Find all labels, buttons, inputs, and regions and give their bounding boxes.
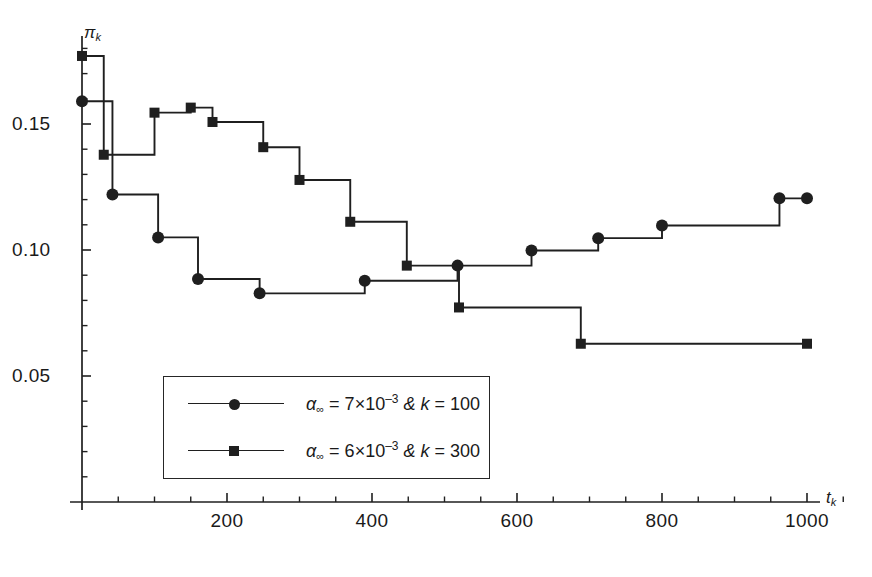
legend-k-1: k (421, 441, 430, 461)
legend-exponent-0: –3 (385, 392, 398, 406)
data-point-square (454, 302, 464, 312)
data-point-square (576, 339, 586, 349)
legend-k-0: k (421, 394, 430, 414)
x-tick-label: 600 (495, 511, 539, 530)
legend-eq1-0: = 7×10 (324, 394, 385, 414)
legend: α∞ = 7×10–3 & k = 100 α∞ = 6×10–3 & k = … (163, 376, 490, 479)
legend-alpha-sub-1: ∞ (316, 450, 324, 462)
legend-label-1: α∞ = 6×10–3 & k = 300 (306, 439, 480, 462)
y-axis-subscript: k (95, 31, 101, 43)
legend-eq2-0: = 100 (430, 394, 481, 414)
x-tick-label: 400 (350, 511, 394, 530)
data-point-circle (192, 273, 204, 285)
data-point-square (345, 217, 355, 227)
data-point-circle (152, 231, 164, 243)
legend-amp-0: & (399, 394, 421, 414)
data-point-square (208, 117, 218, 127)
data-point-square (150, 108, 160, 118)
x-tick-label: 800 (640, 511, 684, 530)
y-axis-label: πk (84, 24, 101, 43)
x-tick-label: 200 (205, 511, 249, 530)
x-tick-label: 1000 (785, 511, 829, 530)
data-point-circle (359, 275, 371, 287)
legend-alpha-0: α (306, 394, 316, 414)
series-square (77, 51, 812, 349)
data-point-square (99, 150, 109, 160)
data-point-circle (656, 220, 668, 232)
data-point-circle (106, 189, 118, 201)
data-point-circle (801, 192, 813, 204)
y-tick-label: 0.10 (12, 240, 51, 259)
y-tick-label: 0.05 (12, 366, 51, 385)
y-axis-symbol: π (84, 23, 95, 42)
figure-chart: πk tk α∞ = 7×10–3 & k = 100 α∞ = 6×10–3 … (0, 0, 872, 577)
data-point-circle (76, 95, 88, 107)
data-point-square (77, 51, 87, 61)
legend-alpha-sub-0: ∞ (316, 403, 324, 415)
data-point-square (295, 175, 305, 185)
legend-sample-circle (188, 397, 284, 411)
data-point-circle (773, 192, 785, 204)
series-line-square (82, 56, 807, 344)
series-circle (76, 95, 813, 299)
legend-exponent-1: –3 (385, 439, 398, 453)
legend-amp-1: & (399, 441, 421, 461)
y-tick-label: 0.15 (12, 114, 51, 133)
data-point-square (802, 339, 812, 349)
legend-eq1-1: = 6×10 (324, 441, 385, 461)
data-point-square (258, 142, 268, 152)
legend-item-0: α∞ = 7×10–3 & k = 100 (188, 392, 480, 415)
legend-label-0: α∞ = 7×10–3 & k = 100 (306, 392, 480, 415)
data-point-circle (592, 232, 604, 244)
data-point-circle (254, 287, 266, 299)
x-axis-subscript: k (831, 496, 837, 508)
chart-plot-area (0, 0, 872, 577)
data-point-square (402, 261, 412, 271)
legend-eq2-1: = 300 (430, 441, 481, 461)
series-line-circle (82, 101, 807, 293)
legend-alpha-1: α (306, 441, 316, 461)
legend-sample-square (188, 444, 284, 458)
data-point-circle (526, 245, 538, 257)
data-point-square (186, 103, 196, 113)
x-axis-label: tk (826, 489, 836, 508)
legend-item-1: α∞ = 6×10–3 & k = 300 (188, 439, 480, 462)
